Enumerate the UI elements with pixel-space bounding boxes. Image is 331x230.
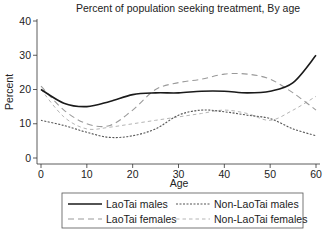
chart-canvas: Percent of population seeking treatment,… <box>0 0 331 230</box>
y-tick-label: 20 <box>19 83 31 95</box>
x-tick-label: 50 <box>264 168 276 180</box>
y-axis-title: Percent <box>3 74 15 110</box>
x-tick-label: 40 <box>218 168 230 180</box>
series-line-laotai-females <box>41 73 316 126</box>
line-chart: Percent of population seeking treatment,… <box>0 0 331 230</box>
y-tick-label: 40 <box>19 15 31 27</box>
series-line-non-laotai-females <box>41 90 316 130</box>
legend-label: LaoTai males <box>106 198 168 210</box>
x-tick-label: 10 <box>81 168 93 180</box>
y-axis-ticks: 010203040 <box>19 15 37 164</box>
series-line-non-laotai-males <box>41 110 316 138</box>
series-lines <box>41 55 316 137</box>
y-tick-label: 0 <box>25 152 31 164</box>
legend-label: Non-LaoTai females <box>214 213 307 225</box>
y-tick-label: 10 <box>19 117 31 129</box>
y-tick-label: 30 <box>19 49 31 61</box>
x-tick-label: 60 <box>310 168 322 180</box>
x-tick-label: 0 <box>38 168 44 180</box>
x-tick-label: 20 <box>127 168 139 180</box>
legend-label: LaoTai females <box>106 213 177 225</box>
x-axis-title: Age <box>170 177 189 189</box>
legend-label: Non-LaoTai males <box>214 198 299 210</box>
legend: LaoTai malesNon-LaoTai malesLaoTai femal… <box>62 193 307 228</box>
chart-title: Percent of population seeking treatment,… <box>76 2 300 14</box>
